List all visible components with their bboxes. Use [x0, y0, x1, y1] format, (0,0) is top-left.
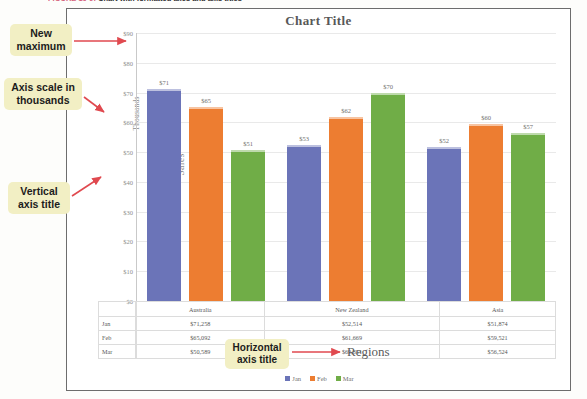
- legend-item-feb[interactable]: Feb: [310, 375, 327, 382]
- bar-highlight: [427, 147, 461, 149]
- bar-data-label: $53: [275, 135, 333, 142]
- table-row: $71,258$52,514$51,874: [137, 317, 556, 331]
- bar-data-label: $52: [415, 137, 473, 144]
- table-cell: $71,258: [137, 317, 265, 331]
- table-cell: $59,521: [440, 331, 556, 345]
- bar-jan-australia[interactable]: $71: [147, 89, 181, 301]
- table-header-row: AustraliaNew ZealandAsia: [137, 302, 556, 317]
- bar-jan-new-zealand[interactable]: $53: [287, 145, 321, 301]
- table-column-header: Asia: [440, 302, 556, 317]
- figure-caption: FIGURE 10-9: Chart with formatted axes a…: [48, 0, 548, 6]
- table-cell: $56,524: [440, 345, 556, 359]
- callout-new-maximum: New maximum: [10, 24, 72, 56]
- bar-group: $52$60$57: [416, 33, 556, 301]
- y-axis-tick-label: $30: [99, 208, 133, 215]
- table-column-header: Australia: [137, 302, 265, 317]
- table-corner-cell: [99, 302, 136, 317]
- data-table-row-headers: JanFebMar: [98, 301, 136, 359]
- bar-highlight: [371, 93, 405, 95]
- bar-groups: $71$65$51$53$62$70$52$60$57: [136, 33, 556, 301]
- bar-data-label: $60: [457, 114, 515, 121]
- bar-group: $53$62$70: [276, 33, 416, 301]
- figure-caption-text: Chart with formatted axes and axis title…: [98, 0, 242, 3]
- table-row: $65,092$61,669$59,521: [137, 331, 556, 345]
- table-cell: $61,669: [264, 331, 440, 345]
- table-row: $50,589$69,851$56,524: [137, 345, 556, 359]
- bar-highlight: [189, 107, 223, 109]
- legend-swatch-icon: [285, 376, 290, 381]
- table-row-header: Jan: [99, 317, 136, 331]
- bar-feb-new-zealand[interactable]: $62: [329, 117, 363, 301]
- bar-slot: $53: [287, 33, 321, 301]
- y-axis-tick-label: $10: [99, 268, 133, 275]
- y-axis-tick-label: $50: [99, 149, 133, 156]
- bar-jan-asia[interactable]: $52: [427, 147, 461, 301]
- y-axis-tick-label: $40: [99, 178, 133, 185]
- bar-feb-asia[interactable]: $60: [469, 124, 503, 301]
- table-cell: $51,874: [440, 317, 556, 331]
- legend-label: Jan: [292, 375, 301, 382]
- y-axis-tick-label: $70: [99, 89, 133, 96]
- table-column-header: New Zealand: [264, 302, 440, 317]
- callout-horizontal-axis-title: Horizontal axis title: [225, 339, 289, 369]
- bar-mar-asia[interactable]: $57: [511, 133, 545, 301]
- legend-label: Feb: [317, 375, 327, 382]
- y-axis-tick-label: $60: [99, 119, 133, 126]
- legend-item-jan[interactable]: Jan: [285, 375, 301, 382]
- bar-slot: $62: [329, 33, 363, 301]
- y-axis-tick-labels: $0$10$20$30$40$50$60$70$80$90: [99, 33, 133, 301]
- y-axis-tick-label: $20: [99, 238, 133, 245]
- bar-data-label: $71: [135, 79, 193, 86]
- bar-highlight: [511, 133, 545, 135]
- bar-mar-australia[interactable]: $51: [231, 150, 265, 301]
- bar-slot: $71: [147, 33, 181, 301]
- bar-data-label: $57: [499, 123, 557, 130]
- data-table[interactable]: AustraliaNew ZealandAsia$71,258$52,514$5…: [136, 301, 556, 359]
- bar-slot: $51: [231, 33, 265, 301]
- bar-highlight: [231, 150, 265, 152]
- bar-highlight: [287, 145, 321, 147]
- figure-number: FIGURE 10-9:: [48, 0, 96, 3]
- horizontal-axis-title[interactable]: Regions: [347, 344, 390, 360]
- bar-mar-new-zealand[interactable]: $70: [371, 93, 405, 301]
- bar-slot: $60: [469, 33, 503, 301]
- y-axis-tick-label: $80: [99, 59, 133, 66]
- bar-data-label: $70: [359, 83, 417, 90]
- bar-data-label: $65: [177, 97, 235, 104]
- y-axis-tick-label: $90: [99, 30, 133, 37]
- callout-axis-scale: Axis scale in thousands: [4, 78, 82, 110]
- chart-legend[interactable]: JanFebMar: [67, 375, 572, 382]
- legend-swatch-icon: [310, 376, 315, 381]
- bar-highlight: [329, 117, 363, 119]
- bar-group: $71$65$51: [136, 33, 276, 301]
- bar-data-label: $62: [317, 107, 375, 114]
- chart-container[interactable]: Chart Title Sales Thousands $0$10$20$30$…: [66, 8, 571, 391]
- bar-slot: $70: [371, 33, 405, 301]
- bar-feb-australia[interactable]: $65: [189, 107, 223, 301]
- bar-slot: $52: [427, 33, 461, 301]
- bar-data-label: $51: [219, 140, 277, 147]
- legend-item-mar[interactable]: Mar: [336, 375, 354, 382]
- table-row-header: Feb: [99, 331, 136, 345]
- table-row-header: Mar: [99, 345, 136, 359]
- callout-vertical-axis-title: Vertical axis title: [8, 182, 70, 214]
- legend-label: Mar: [343, 375, 354, 382]
- table-cell: $52,514: [264, 317, 440, 331]
- bar-slot: $57: [511, 33, 545, 301]
- bar-highlight: [469, 124, 503, 126]
- bar-slot: $65: [189, 33, 223, 301]
- bar-highlight: [147, 89, 181, 91]
- legend-swatch-icon: [336, 376, 341, 381]
